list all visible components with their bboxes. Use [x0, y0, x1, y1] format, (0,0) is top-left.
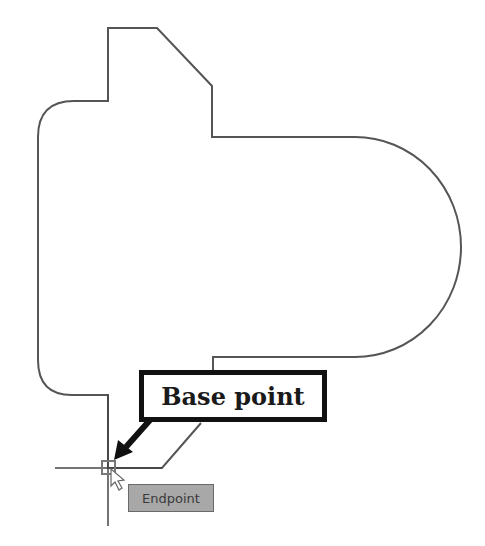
callout-arrow-icon: [114, 420, 150, 460]
tooltip-label: Endpoint: [142, 491, 200, 506]
base-point-callout: Base point: [139, 370, 327, 422]
endpoint-snap-tooltip: Endpoint: [128, 484, 214, 512]
cad-drawing: [0, 0, 485, 546]
cursor-arrow-icon: [111, 469, 124, 490]
callout-label: Base point: [161, 382, 304, 411]
drawing-canvas[interactable]: Base point Endpoint: [0, 0, 485, 546]
